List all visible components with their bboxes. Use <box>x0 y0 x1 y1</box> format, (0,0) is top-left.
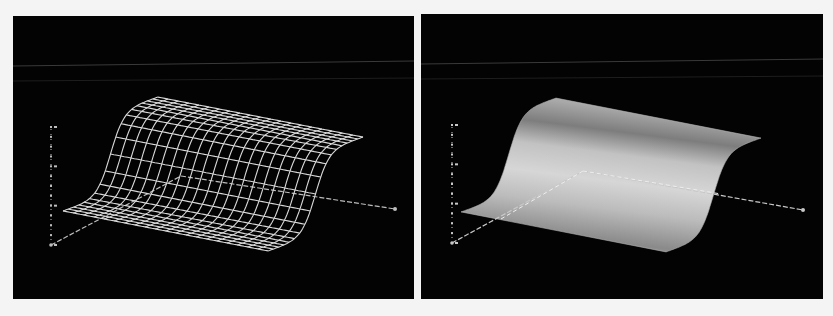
wireframe-mesh <box>63 97 363 251</box>
shaded-surface <box>461 98 761 252</box>
wireframe-surface-plot <box>13 16 414 299</box>
shaded-surface-panel: 3D shaded (gouraud) rendering of the sam… <box>421 14 823 299</box>
wireframe-surface-panel: 3D wireframe surface showing a smooth st… <box>13 16 414 299</box>
shaded-surface-plot <box>421 14 823 299</box>
